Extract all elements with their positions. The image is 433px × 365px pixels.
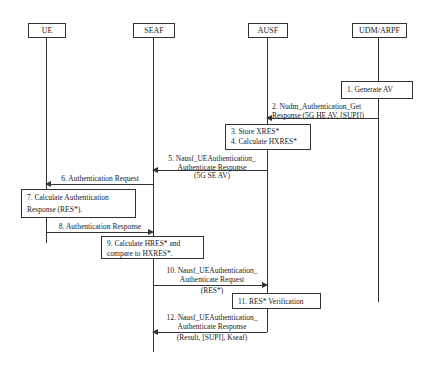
step-1-label: 1. Generate AV: [347, 85, 393, 94]
lifeline-seaf: [153, 38, 154, 352]
step-3-4-store-calculate: 3. Store XRES*4. Calculate HXRES*: [225, 124, 311, 150]
step-10-label: 10. Nausf_UEAuthentication_Authenticate …: [158, 266, 266, 284]
step-11-res-verification: 11. RES* Verification: [232, 293, 321, 309]
arrow-step-8: [46, 232, 153, 233]
step-1-generate-av: 1. Generate AV: [341, 81, 413, 99]
step-5-label-params: (5G SE AV): [160, 171, 264, 180]
step-6-label: 6. Authentication Request: [48, 174, 152, 183]
arrow-step-2: [267, 118, 378, 119]
entity-ausf: AUSF: [248, 23, 288, 38]
step-12-label: 12. Nausf_UEAuthentication_Authenticate …: [158, 313, 266, 331]
entity-seaf: SEAF: [133, 23, 175, 38]
step-12-label-params: (Result, [SUPI], Kseaf): [158, 333, 266, 342]
arrow-step-6: [46, 184, 153, 185]
step-8-label: 8. Authentication Response: [48, 222, 152, 231]
entity-ue: UE: [28, 23, 66, 38]
step-9-calculate-hres: 9. Calculate HRES* andcompare to HXRES*.: [101, 236, 204, 259]
step-7-calculate-res: 7. Calculate AuthenticationResponse (RES…: [21, 189, 136, 218]
entity-udm-arpf: UDM/ARPF: [352, 23, 407, 38]
lifeline-udm-arpf: [378, 38, 379, 302]
